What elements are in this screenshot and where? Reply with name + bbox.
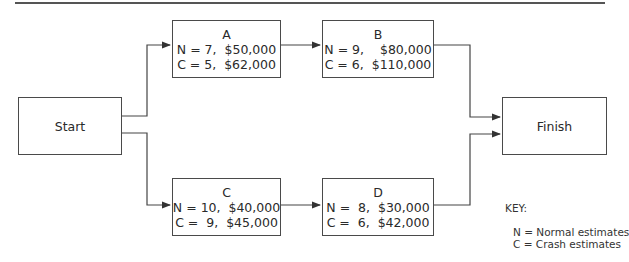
activity-b-node: B N = 9, $80,000 C = 6, $110,000 — [322, 20, 434, 78]
normal-estimate: N = 10, $40,000 — [173, 200, 280, 215]
key-normal: N = Normal estimates — [513, 226, 629, 238]
activity-label: A — [222, 27, 231, 42]
activity-label: C — [222, 185, 231, 200]
activity-c-node: C N = 10, $40,000 C = 9, $45,000 — [172, 178, 281, 236]
crash-estimate: C = 5, $62,000 — [177, 57, 276, 72]
crash-estimate: C = 6, $42,000 — [327, 215, 430, 230]
key-crash: C = Crash estimates — [513, 238, 621, 250]
edge-d-finish — [434, 134, 500, 205]
crash-estimate: C = 6, $110,000 — [325, 57, 432, 72]
edge-start-a — [122, 45, 170, 116]
activity-label: D — [373, 185, 383, 200]
activity-a-node: A N = 7, $50,000 C = 5, $62,000 — [172, 20, 281, 78]
activity-d-node: D N = 8, $30,000 C = 6, $42,000 — [322, 178, 434, 236]
key-title: KEY: — [505, 202, 527, 214]
finish-label: Finish — [537, 119, 573, 134]
edge-b-finish — [434, 45, 500, 117]
start-label: Start — [55, 119, 86, 134]
normal-estimate: N = 7, $50,000 — [177, 42, 276, 57]
normal-estimate: N = 9, $80,000 — [324, 42, 431, 57]
edge-start-c — [122, 133, 170, 205]
finish-node: Finish — [502, 97, 607, 155]
activity-label: B — [374, 27, 383, 42]
normal-estimate: N = 8, $30,000 — [326, 200, 429, 215]
crash-estimate: C = 9, $45,000 — [175, 215, 278, 230]
start-node: Start — [18, 97, 122, 155]
